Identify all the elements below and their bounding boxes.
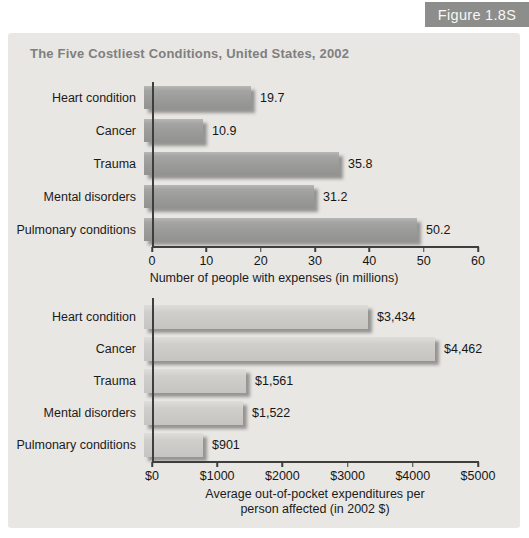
tick-label: $1000 xyxy=(200,469,235,483)
bar-area: $4,462 xyxy=(144,337,520,361)
value-label: $901 xyxy=(212,438,240,452)
category-label: Pulmonary conditions xyxy=(8,438,144,452)
category-label: Mental disorders xyxy=(8,406,144,420)
tick-mark xyxy=(477,462,479,467)
tick-label: 50 xyxy=(417,254,431,268)
bar-area: $1,561 xyxy=(144,369,520,393)
bar xyxy=(144,218,417,241)
tick-mark xyxy=(151,247,153,252)
value-label: 35.8 xyxy=(348,157,372,171)
bar-area: $901 xyxy=(144,433,520,457)
value-label: $4,462 xyxy=(444,342,482,356)
tick-mark xyxy=(151,462,153,467)
tick-mark xyxy=(314,247,316,252)
tick-label: $3000 xyxy=(330,469,365,483)
value-label: 10.9 xyxy=(212,124,236,138)
bar-row: Cancer10.9 xyxy=(8,114,520,147)
bar-area: 31.2 xyxy=(144,185,520,208)
tick-label: 20 xyxy=(254,254,268,268)
bar-row: Trauma35.8 xyxy=(8,147,520,180)
category-label: Cancer xyxy=(8,342,144,356)
tick-mark xyxy=(477,247,479,252)
chart-title: The Five Costliest Conditions, United St… xyxy=(30,46,349,61)
tick-mark xyxy=(216,462,218,467)
tick-mark xyxy=(412,462,414,467)
bar xyxy=(144,86,251,109)
tick-mark xyxy=(369,247,371,252)
tick-label: $0 xyxy=(145,469,159,483)
page: Figure 1.8S The Five Costliest Condition… xyxy=(0,0,529,538)
bar-area: 35.8 xyxy=(144,152,520,175)
bar-area: $3,434 xyxy=(144,305,520,329)
bar-row: Trauma$1,561 xyxy=(8,365,520,397)
value-label: $1,522 xyxy=(252,406,290,420)
category-label: Heart condition xyxy=(8,91,144,105)
tick-label: 0 xyxy=(149,254,156,268)
x-axis-title-line-2: person affected (in 2002 $) xyxy=(152,502,478,516)
bar-area: 50.2 xyxy=(144,218,520,241)
tick-label: 30 xyxy=(308,254,322,268)
bar-row: Heart condition$3,434 xyxy=(8,301,520,333)
tick-mark xyxy=(282,462,284,467)
tick-label: 60 xyxy=(471,254,485,268)
x-axis-line xyxy=(152,461,479,463)
category-label: Trauma xyxy=(8,157,144,171)
value-label: 31.2 xyxy=(323,190,347,204)
tick-mark xyxy=(206,247,208,252)
bar-row: Heart condition19.7 xyxy=(8,81,520,114)
bar-rows: Heart condition19.7Cancer10.9Trauma35.8M… xyxy=(8,81,520,246)
tick-label: $5000 xyxy=(461,469,496,483)
bar-row: Mental disorders$1,522 xyxy=(8,397,520,429)
figure-number-badge: Figure 1.8S xyxy=(425,2,529,27)
category-label: Pulmonary conditions xyxy=(8,223,144,237)
category-label: Trauma xyxy=(8,374,144,388)
bar xyxy=(144,401,243,425)
x-axis-title: Number of people with expenses (in milli… xyxy=(28,271,520,285)
value-label: 50.2 xyxy=(426,223,450,237)
y-axis-line xyxy=(152,298,154,461)
bar-rows: Heart condition$3,434Cancer$4,462Trauma$… xyxy=(8,301,520,461)
chart-out-of-pocket-expenditures: Heart condition$3,434Cancer$4,462Trauma$… xyxy=(8,295,520,525)
bar xyxy=(144,305,368,329)
category-label: Heart condition xyxy=(8,310,144,324)
bar-area: $1,522 xyxy=(144,401,520,425)
bar-area: 10.9 xyxy=(144,119,520,142)
bar xyxy=(144,185,314,208)
category-label: Cancer xyxy=(8,124,144,138)
value-label: $1,561 xyxy=(255,374,293,388)
bar-row: Mental disorders31.2 xyxy=(8,180,520,213)
tick-mark xyxy=(423,247,425,252)
tick-label: 10 xyxy=(199,254,213,268)
bar-row: Cancer$4,462 xyxy=(8,333,520,365)
category-label: Mental disorders xyxy=(8,190,144,204)
tick-mark xyxy=(347,462,349,467)
bar xyxy=(144,152,339,175)
tick-label: $4000 xyxy=(395,469,430,483)
x-axis-title-line-1: Average out-of-pocket expenditures per xyxy=(152,487,478,501)
bar-area: 19.7 xyxy=(144,86,520,109)
tick-label: $2000 xyxy=(265,469,300,483)
tick-label: 40 xyxy=(362,254,376,268)
bar-row: Pulmonary conditions$901 xyxy=(8,429,520,461)
y-axis-line xyxy=(152,82,154,246)
value-label: 19.7 xyxy=(260,91,284,105)
value-label: $3,434 xyxy=(377,310,415,324)
bar-row: Pulmonary conditions50.2 xyxy=(8,213,520,246)
chart-number-of-people: Heart condition19.7Cancer10.9Trauma35.8M… xyxy=(8,81,520,291)
bar xyxy=(144,337,435,361)
tick-mark xyxy=(260,247,262,252)
figure-panel: The Five Costliest Conditions, United St… xyxy=(8,33,520,528)
bar xyxy=(144,369,246,393)
